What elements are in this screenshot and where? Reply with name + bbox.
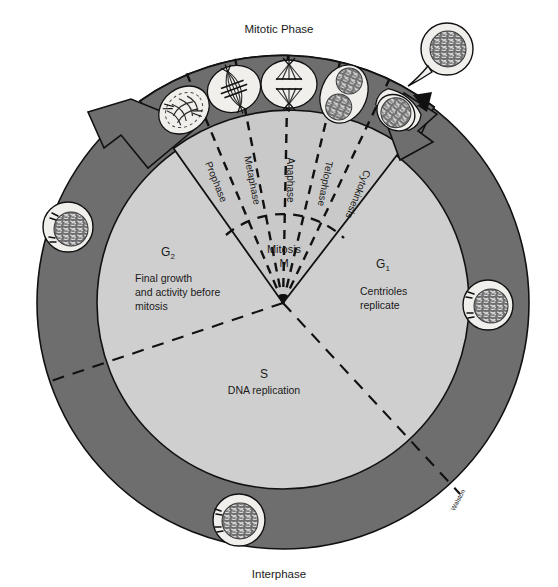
cell-cycle-diagram: Mitotic Phase Interphase Prophase Metaph… — [0, 0, 558, 587]
label-g2-line-1: Final growth — [135, 272, 192, 284]
label-g1-line-1: Centrioles — [360, 285, 407, 297]
label-g1-line-2: replicate — [360, 299, 400, 311]
interphase-cell-right — [463, 280, 513, 330]
label-s: S — [260, 367, 268, 381]
label-anaphase: Anaphase — [285, 157, 296, 202]
title-interphase: Interphase — [252, 568, 306, 580]
interphase-cell-bottom — [213, 494, 265, 546]
diagram-canvas: Mitotic Phase Interphase Prophase Metaph… — [0, 0, 558, 587]
label-s-line-1: DNA replication — [228, 384, 301, 396]
label-g2-line-2: and activity before — [135, 286, 220, 298]
label-g2-line-3: mitosis — [135, 300, 168, 312]
interphase-cell-left — [43, 202, 93, 252]
label-mitosis: Mitosis — [267, 243, 302, 255]
title-mitotic-phase: Mitotic Phase — [244, 23, 313, 35]
label-mitosis-abbrev: M — [279, 257, 288, 269]
